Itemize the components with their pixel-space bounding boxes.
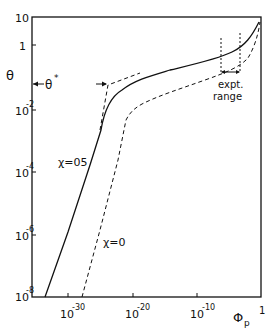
svg-text:-30: -30 — [72, 303, 85, 312]
y-tick-1e-2: 10 -2 — [15, 100, 34, 118]
y-tick-1e-8: 10 -8 — [15, 286, 34, 304]
svg-text:Φ: Φ — [233, 310, 243, 325]
chart: 10 1 10 -2 10 -4 10 -6 10 -8 10 -30 10 -… — [0, 0, 275, 333]
y-axis-label: θ — [6, 68, 14, 83]
svg-text:-10: -10 — [202, 303, 215, 312]
series-chi-0 — [82, 22, 260, 297]
svg-text:-2: -2 — [26, 100, 34, 109]
svg-text:-6: -6 — [26, 225, 34, 234]
y-tick-1e-4: 10 -4 — [15, 162, 34, 180]
svg-text:θ: θ — [45, 78, 52, 92]
expt-range-label-line2: range — [213, 91, 242, 102]
theta-star-annotation: θ * — [33, 73, 59, 92]
x-tick-1: 1 — [259, 305, 265, 316]
x-tick-1e-10: 10 -10 — [190, 303, 215, 321]
expt-range-bracket — [221, 33, 240, 74]
x-tick-1e-20: 10 -20 — [125, 303, 150, 321]
x-tick-1e-30: 10 -30 — [60, 303, 85, 321]
y-tick-1e-6: 10 -6 — [15, 225, 34, 243]
x-axis-label: Φ p — [233, 310, 250, 328]
y-tick-10: 10 — [15, 12, 29, 25]
series-chi-0.5-asymptote — [100, 73, 140, 130]
svg-text:*: * — [54, 73, 59, 83]
svg-text:p: p — [244, 318, 250, 328]
expt-range-label-line1: expt. — [218, 79, 243, 90]
kink-arrow — [96, 82, 107, 87]
y-tick-1: 1 — [19, 40, 26, 53]
label-chi-0.5: χ=05 — [58, 156, 88, 169]
label-chi-0: χ=0 — [103, 236, 126, 249]
svg-text:-20: -20 — [137, 303, 150, 312]
svg-text:-4: -4 — [26, 162, 34, 171]
svg-text:-8: -8 — [26, 286, 34, 295]
